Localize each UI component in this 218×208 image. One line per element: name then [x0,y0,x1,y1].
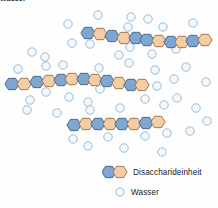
water-molecule [64,20,72,28]
water-molecule [42,88,50,96]
water-molecule [53,109,61,117]
monosaccharide-unit-blue [139,117,153,128]
water-molecule [170,75,178,83]
water-molecule [192,104,200,112]
water-molecule [14,65,22,73]
water-molecule [95,64,103,72]
monosaccharide-unit-orange [88,74,102,85]
water-molecule [148,50,156,58]
water-molecule [41,53,49,61]
water-molecule [94,11,102,19]
water-molecule [116,104,124,112]
disaccharide-hexagon-pair-icon [102,165,128,179]
legend-item-wasser: Wasser [114,185,159,199]
monosaccharide-unit-orange [151,116,165,127]
water-molecule [186,127,194,135]
monosaccharide-unit-blue [67,119,81,130]
water-molecule [189,19,197,27]
polysaccharide-chain [5,73,149,90]
legend-item-disaccharide: Disaccharideinheit [102,165,202,179]
monosaccharide-unit-orange [112,77,126,88]
polysaccharide-chain [81,27,212,47]
water-circle-icon [114,185,126,199]
polysaccharide-chain-layer [5,27,212,130]
monosaccharide-unit-orange [127,118,141,129]
legend: Disaccharideinheit Wasser [100,160,218,206]
water-molecule [120,144,128,152]
water-molecule [173,94,181,102]
water-molecule [86,40,94,48]
monosaccharide-unit-orange [93,28,107,39]
water-molecule [84,142,92,150]
water-molecule [182,63,190,71]
water-molecule [26,96,34,104]
water-molecule [125,59,133,67]
water-molecule [202,78,210,86]
monosaccharide-unit-blue [100,75,114,86]
monosaccharide-unit-blue [140,34,154,45]
water-molecule [86,106,94,114]
monosaccharide-unit-orange [42,75,56,86]
monosaccharide-unit-blue [186,35,200,46]
water-molecule [28,48,36,56]
water-molecule [141,132,149,140]
monosaccharide-unit-blue [105,30,119,41]
water-molecule [23,106,31,114]
figure-root: Wasser Disaccharideinheit Wasser [0,0,218,208]
monosaccharide-unit-blue [30,76,44,87]
water-molecule [69,135,77,143]
water-molecule [158,148,166,156]
water-molecule [151,66,159,74]
water-molecule [65,93,73,101]
water-molecule [160,101,168,109]
monosaccharide-unit-orange [152,35,166,46]
water-molecule [84,98,92,106]
water-molecule [153,82,161,90]
water-molecule [42,62,50,70]
water-molecule [68,39,76,47]
legend-label-disaccharide: Disaccharideinheit [133,168,202,177]
water-molecule [163,129,171,137]
legend-label-wasser: Wasser [131,188,159,197]
water-molecule [124,23,132,31]
polysaccharide-chain [67,116,165,130]
water-molecule [127,13,135,21]
water-molecule [115,51,123,59]
monosaccharide-unit-orange [135,79,149,90]
water-molecule [144,15,152,23]
water-molecule [104,133,112,141]
monosaccharide-unit-blue [81,27,95,38]
water-molecule [141,95,149,103]
monosaccharide-unit-orange [17,78,31,89]
monosaccharide-unit-orange [198,34,212,45]
water-molecule [159,23,167,31]
water-molecule [59,61,67,69]
water-molecule [203,117,211,125]
